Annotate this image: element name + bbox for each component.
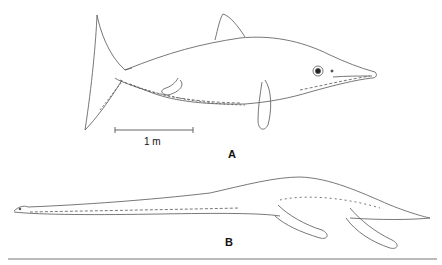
panel-label-b: B [225, 236, 233, 248]
scale-bar [115, 127, 193, 133]
plesiosaur-drawing [14, 177, 430, 248]
ichthyosaur-drawing [85, 14, 376, 130]
figure-canvas [0, 0, 442, 265]
panel-label-a: A [228, 148, 236, 160]
scale-bar-label: 1 m [144, 136, 161, 147]
